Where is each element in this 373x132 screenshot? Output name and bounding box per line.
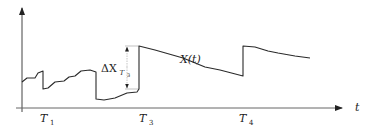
curve-label: X(t) (179, 53, 201, 66)
tick-label-t3: T 3 (139, 112, 154, 127)
tick-label-t1: T 1 (40, 112, 55, 127)
diagram-canvas: X(t) ΔX T 3 T 1 T 3 T 4 t (0, 0, 373, 132)
tick-label-t4: T 4 (239, 112, 254, 127)
jump-label-sub-base: T (120, 69, 126, 77)
x-axis-label: t (355, 101, 360, 114)
jump-label-sub-index: 3 (127, 72, 130, 78)
jump-label: ΔX T 3 (101, 62, 130, 78)
jump-label-delta: ΔX (101, 62, 117, 75)
process-path (22, 46, 310, 100)
